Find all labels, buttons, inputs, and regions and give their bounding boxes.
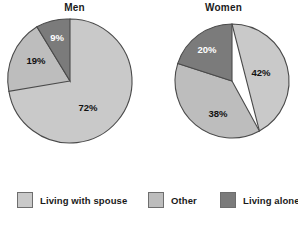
legend-swatch-other — [148, 192, 164, 208]
legend: Living with spouse Other Living alone — [0, 190, 298, 214]
legend-item-other: Other — [148, 190, 197, 210]
legend-label-other: Other — [171, 195, 197, 206]
pie-men-label-living-alone: 9% — [50, 32, 64, 43]
pie-women-svg: 42% 38% 20% — [149, 0, 298, 170]
legend-item-living-with-spouse: Living with spouse — [17, 190, 127, 210]
legend-label-living-with-spouse: Living with spouse — [40, 195, 127, 206]
pie-men-svg: 72% 19% 9% — [0, 0, 149, 170]
legend-item-living-alone: Living alone — [220, 190, 298, 210]
pie-men-label-other: 19% — [26, 55, 46, 66]
legend-swatch-living-with-spouse — [17, 192, 33, 208]
pie-women-label-living-with-spouse: 42% — [251, 67, 271, 78]
pie-men-label-living-with-spouse: 72% — [78, 102, 98, 113]
legend-swatch-living-alone — [220, 192, 236, 208]
pie-women-label-living-alone: 20% — [197, 44, 217, 55]
pie-women: 42% 38% 20% — [149, 0, 298, 170]
pie-chart-figure: Men 72% 19% 9% Women — [0, 0, 298, 227]
pie-men: 72% 19% 9% — [0, 0, 149, 170]
legend-label-living-alone: Living alone — [243, 195, 298, 206]
pie-women-label-other: 38% — [208, 108, 228, 119]
